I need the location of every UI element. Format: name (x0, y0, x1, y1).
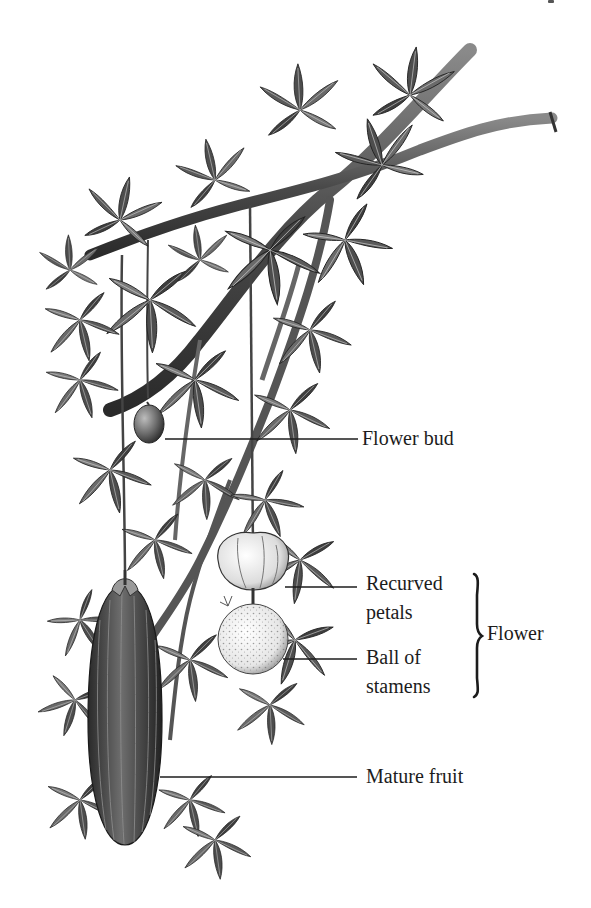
label-mature-fruit: Mature fruit (366, 762, 463, 791)
botanical-illustration: Flower bud Recurved petals Ball of stame… (0, 0, 591, 908)
label-recurved-petals: Recurved petals (366, 569, 443, 627)
ball-of-stamens (218, 596, 288, 674)
label-flower: Flower (487, 622, 544, 645)
label-ball-of-stamens: Ball of stamens (366, 643, 430, 701)
label-ball-of-stamens-line2: stamens (366, 672, 430, 701)
flower-bud (134, 402, 164, 443)
label-ball-of-stamens-line1: Ball of (366, 643, 430, 672)
label-flower-bud: Flower bud (362, 424, 454, 453)
label-mature-fruit-text: Mature fruit (366, 762, 463, 791)
recurved-petals (218, 532, 289, 604)
label-recurved-petals-line2: petals (366, 598, 443, 627)
flower-brace (474, 574, 482, 697)
mature-fruit (88, 570, 162, 845)
branch-drawing (0, 0, 591, 908)
label-flower-text: Flower (487, 622, 544, 644)
label-flower-bud-text: Flower bud (362, 424, 454, 453)
label-recurved-petals-line1: Recurved (366, 569, 443, 598)
